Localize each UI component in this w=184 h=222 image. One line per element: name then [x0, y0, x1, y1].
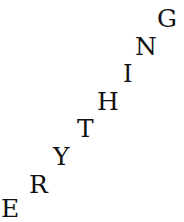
letter-t-3: T	[77, 116, 94, 141]
letter-i-5: I	[123, 62, 132, 86]
letter-n-6: N	[135, 34, 157, 59]
artwork-canvas: ERYTHING	[0, 0, 184, 222]
letter-y-2: Y	[53, 144, 70, 169]
letter-g-7: G	[157, 6, 177, 31]
letter-r-1: R	[29, 172, 48, 197]
letter-e-0: E	[1, 196, 19, 221]
letter-h-4: H	[97, 89, 119, 114]
